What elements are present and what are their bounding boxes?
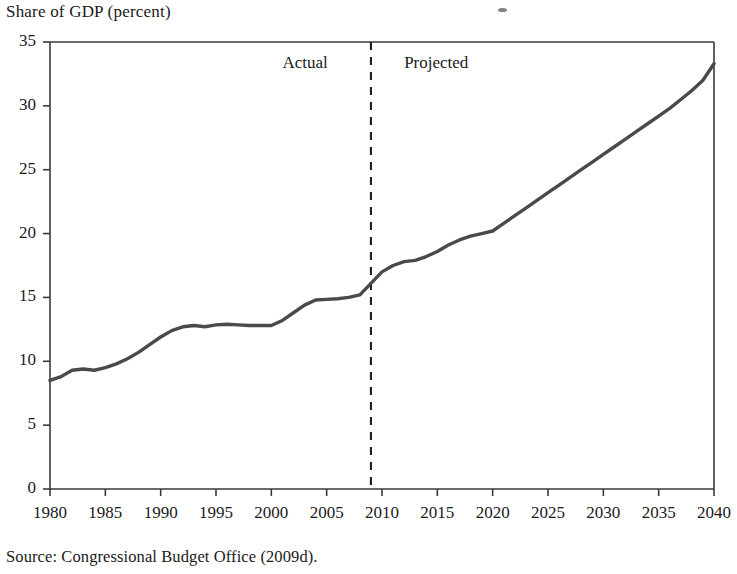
x-tick-label-1980: 1980 (20, 503, 80, 523)
series-line-0 (50, 64, 714, 381)
source-note: Source: Congressional Budget Office (200… (6, 547, 318, 567)
x-tick-label-1985: 1985 (75, 503, 135, 523)
y-tick-label-0: 0 (0, 478, 36, 498)
x-tick-label-2000: 2000 (241, 503, 301, 523)
chart-plot-area (0, 0, 737, 574)
x-tick-label-2005: 2005 (297, 503, 357, 523)
x-tick-label-2035: 2035 (629, 503, 689, 523)
x-tick-label-2030: 2030 (573, 503, 633, 523)
y-tick-label-25: 25 (0, 159, 36, 179)
y-tick-label-5: 5 (0, 414, 36, 434)
y-tick-label-20: 20 (0, 223, 36, 243)
x-tick-label-2040: 2040 (684, 503, 737, 523)
x-axis-ticks (50, 489, 714, 496)
y-axis-ticks (43, 42, 50, 489)
data-series-group (50, 64, 714, 381)
x-tick-label-2015: 2015 (407, 503, 467, 523)
plot-frame (50, 42, 714, 489)
x-tick-label-1995: 1995 (186, 503, 246, 523)
y-tick-label-15: 15 (0, 286, 36, 306)
annotation-projected: Projected (404, 53, 468, 73)
x-tick-label-2010: 2010 (352, 503, 412, 523)
y-tick-label-35: 35 (0, 31, 36, 51)
y-tick-label-10: 10 (0, 350, 36, 370)
figure-container: Share of GDP (percent) 05101520253035 19… (0, 0, 737, 574)
y-tick-label-30: 30 (0, 95, 36, 115)
x-tick-label-2020: 2020 (463, 503, 523, 523)
x-tick-label-2025: 2025 (518, 503, 578, 523)
x-tick-label-1990: 1990 (131, 503, 191, 523)
annotation-actual: Actual (282, 53, 327, 73)
